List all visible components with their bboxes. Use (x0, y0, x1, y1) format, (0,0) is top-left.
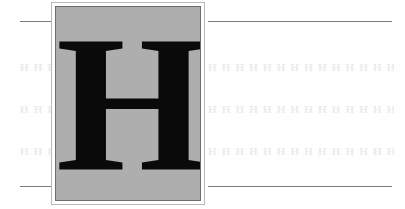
chapter-opening-page: HHH HHH HHH HHH HHH HHH HHH HHH HHH HHH … (0, 0, 405, 209)
watermark-row: HHHHHHHHHHHHHHHH (208, 144, 394, 158)
watermark-row: HHHHHHHHHHHHHHHH (208, 102, 394, 116)
bottom-rule-right-segment (208, 186, 392, 187)
dropcap-letter: H (56, 29, 200, 178)
watermark-row: HHHHHHHHHHHHHHHH (208, 60, 394, 74)
watermark-pattern-right: HHHHHHHHHHHHHHHH HHHHHHHHHHHHHHHH HHHHHH… (208, 32, 394, 168)
top-rule-right-segment (208, 21, 392, 22)
dropcap-panel: H (55, 6, 201, 201)
dropcap-outer-frame: H (51, 2, 205, 205)
